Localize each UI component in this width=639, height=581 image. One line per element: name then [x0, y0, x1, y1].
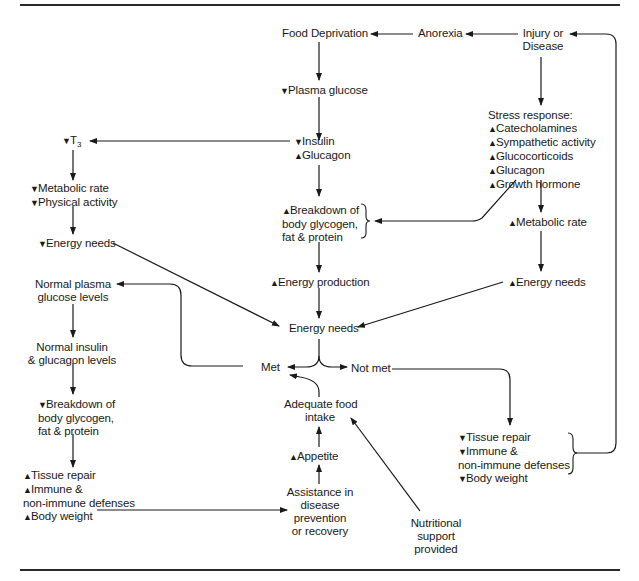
node-normal-plasma-glucose: Normal plasma glucose levels — [30, 278, 116, 304]
up-arrow-icon: ▲ — [488, 151, 496, 164]
node-plasma-glucose: ▼Plasma glucose — [280, 84, 368, 98]
node-energy-production: ▲Energy production — [270, 276, 370, 290]
node-tissue-repair-decrease: ▼Tissue repair ▼Immune & non-immune defe… — [458, 431, 570, 486]
node-not-met: Not met — [351, 362, 391, 375]
node-insulin-glucagon: ▼Insulin ▲Glucagon — [294, 135, 350, 163]
up-arrow-icon: ▲ — [23, 511, 31, 524]
node-met: Met — [261, 361, 280, 374]
node-assistance-disease-prevention: Assistance in disease prevention or reco… — [282, 486, 358, 538]
node-t3: ▼T3 — [62, 134, 81, 151]
node-energy-needs-decrease: ▼Energy needs — [38, 237, 116, 251]
up-arrow-icon: ▲ — [508, 277, 516, 290]
node-stress-response: Stress response: ▲Catecholamines ▲Sympat… — [488, 109, 596, 192]
node-metabolic-physical: ▼Metabolic rate ▼Physical activity — [30, 182, 117, 210]
up-arrow-icon: ▲ — [488, 123, 496, 136]
node-appetite: ▲Appetite — [289, 450, 338, 464]
up-arrow-icon: ▲ — [23, 484, 31, 497]
down-arrow-icon: ▼ — [458, 432, 466, 445]
up-arrow-icon: ▲ — [508, 217, 516, 230]
up-arrow-icon: ▲ — [289, 451, 297, 464]
down-arrow-icon: ▼ — [38, 399, 46, 412]
node-breakdown-increase: ▲Breakdown of body glycogen, fat & prote… — [282, 204, 359, 244]
down-arrow-icon: ▼ — [30, 183, 38, 196]
down-arrow-icon: ▼ — [62, 135, 70, 148]
node-energy-needs-increase: ▲Energy needs — [508, 276, 586, 290]
down-arrow-icon: ▼ — [294, 136, 302, 149]
node-nutritional-support: Nutritional support provided — [406, 517, 466, 556]
node-metabolic-rate-increase: ▲Metabolic rate — [508, 216, 587, 230]
up-arrow-icon: ▲ — [488, 165, 496, 178]
node-normal-insulin-glucagon: Normal insulin & glucagon levels — [22, 341, 122, 367]
node-food-deprivation: Food Deprivation — [282, 27, 368, 40]
up-arrow-icon: ▲ — [270, 277, 278, 290]
node-anorexia: Anorexia — [418, 27, 463, 40]
down-arrow-icon: ▼ — [280, 85, 288, 98]
node-injury-or-disease: Injury or Disease — [522, 27, 564, 53]
node-energy-needs-center: Energy needs — [289, 322, 359, 335]
down-arrow-icon: ▼ — [458, 473, 466, 486]
down-arrow-icon: ▼ — [30, 197, 38, 210]
up-arrow-icon: ▲ — [488, 179, 496, 192]
up-arrow-icon: ▲ — [23, 470, 31, 483]
down-arrow-icon: ▼ — [458, 446, 466, 459]
down-arrow-icon: ▼ — [38, 238, 46, 251]
up-arrow-icon: ▲ — [488, 137, 496, 150]
node-adequate-food-intake: Adequate food intake — [284, 398, 356, 424]
up-arrow-icon: ▲ — [282, 205, 290, 218]
up-arrow-icon: ▲ — [294, 150, 302, 163]
node-breakdown-decrease: ▼Breakdown of body glycogen, fat & prote… — [38, 398, 115, 438]
flowchart-diagram: Food Deprivation Anorexia Injury or Dise… — [0, 0, 639, 581]
node-tissue-repair-increase: ▲Tissue repair ▲Immune & non-immune defe… — [23, 469, 135, 524]
